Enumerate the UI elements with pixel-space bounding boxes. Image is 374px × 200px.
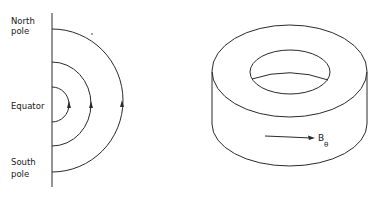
ring-hole-edge [250, 50, 330, 94]
arrow-right-icon [308, 136, 315, 141]
meridional-field-figure: North pole Equator South pole [11, 13, 124, 187]
ring-inner-wall-edge [252, 73, 328, 80]
ring-bottom-edge [212, 124, 367, 166]
south-label-line1: South [11, 157, 36, 167]
toroidal-field-figure: B θ [212, 25, 367, 166]
diagram-canvas: North pole Equator South pole B θ [0, 0, 374, 200]
equator-label: Equator [11, 101, 45, 111]
field-line-middle [52, 62, 91, 146]
field-line-inner [52, 87, 69, 122]
field-arrow-line [265, 136, 311, 138]
arrow-up-icon [89, 101, 93, 108]
ring-top-outer-edge [212, 25, 367, 117]
north-label-line1: North [11, 16, 35, 26]
field-subscript: θ [324, 141, 328, 149]
north-label-line2: pole [11, 26, 29, 36]
dot-mark [91, 33, 93, 35]
field-line-outer [52, 29, 123, 172]
arrow-up-icon [67, 101, 71, 108]
south-label-line2: pole [11, 169, 29, 179]
